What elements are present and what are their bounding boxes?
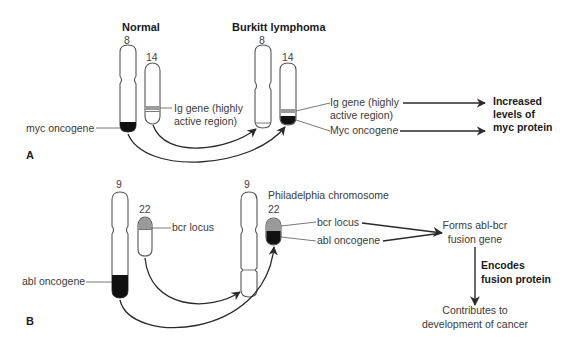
bl-ig-gene-label-line2: active region) — [330, 109, 393, 122]
myc-oncogene-band — [120, 122, 136, 132]
chromosome-22 — [138, 217, 152, 256]
burkitt-lymphoma-title: Burkitt lymphoma — [232, 21, 326, 34]
encodes-line1: Encodes — [481, 259, 525, 272]
outcome-line2: development of cancer — [415, 318, 535, 331]
burkitt-chr8-label: 8 — [259, 34, 265, 47]
bl-ig-gene-label-line1: Ig gene (highly — [330, 96, 399, 109]
translocation-arrow-14-to-8 — [153, 125, 256, 148]
fusion-gene-line2: fusion gene — [440, 233, 510, 246]
ig-gene-label-line1: Ig gene (highly — [174, 102, 243, 115]
panel-a-letter: A — [26, 149, 34, 162]
normal-chromosome-14 — [145, 63, 160, 124]
result-line1: Increased — [493, 95, 542, 108]
burkitt-chromosome-14 — [280, 63, 296, 125]
ig-gene-label-line2: active region) — [174, 115, 237, 128]
normal-title: Normal — [122, 21, 160, 34]
result-line2: levels of — [493, 108, 535, 121]
chr9-label: 9 — [116, 178, 122, 191]
translocation-arrow-22-to-9 — [145, 258, 240, 304]
translocation-diagram: Normal 8 14 Ig gene (highly active regio… — [0, 0, 573, 348]
normal-chromosome-8 — [120, 45, 136, 132]
result-line3: myc protein — [493, 121, 553, 134]
panel-b-letter: B — [26, 315, 34, 328]
abl-oncogene-label: abl oncogene — [22, 275, 85, 288]
ph-abl-oncogene-label: abl oncogene — [317, 234, 380, 247]
myc-oncogene-label: myc oncogene — [26, 122, 94, 135]
burkitt-chromosome-8 — [255, 45, 271, 128]
outcome-line1: Contributes to — [415, 304, 535, 317]
encodes-line2: fusion protein — [481, 273, 551, 286]
der-chr9-label: 9 — [244, 178, 250, 191]
ph-chr22-label: 22 — [268, 203, 280, 216]
normal-chr14-label: 14 — [146, 51, 158, 64]
philadelphia-chromosome-title: Philadelphia chromosome — [268, 189, 389, 202]
abl-oncogene-band — [112, 275, 128, 298]
bl-myc-oncogene-label: Myc oncogene — [330, 124, 398, 137]
ig-gene-band — [146, 106, 160, 110]
chromosome-9 — [112, 192, 128, 298]
derivative-chromosome-9 — [241, 192, 257, 297]
philadelphia-chromosome — [266, 218, 281, 245]
chr22-label: 22 — [139, 203, 151, 216]
normal-chr8-label: 8 — [124, 34, 130, 47]
bcr-locus-label: bcr locus — [172, 221, 214, 234]
translocation-arrow-myc-to-14 — [128, 127, 285, 162]
fusion-gene-line1: Forms abl-bcr — [440, 219, 510, 232]
ph-bcr-locus-label: bcr locus — [317, 216, 359, 229]
burkitt-chr14-label: 14 — [282, 51, 294, 64]
